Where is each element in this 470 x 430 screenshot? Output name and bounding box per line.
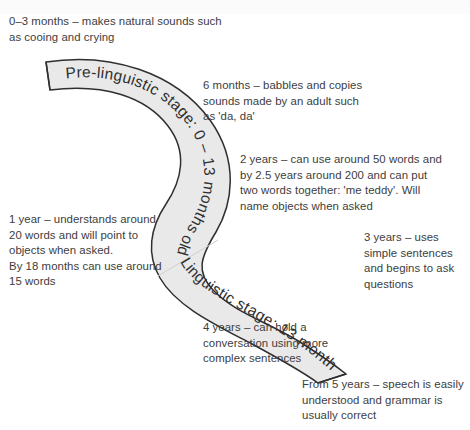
note-2-years: 2 years – can use around 50 words and by…: [240, 152, 445, 214]
note-1-year: 1 year – understands around 20 words and…: [9, 212, 169, 290]
language-development-diagram: Pre-linguistic stage: 0 – 13 months old …: [0, 0, 470, 430]
note-5-years-plus: From 5 years – speech is easily understo…: [302, 377, 468, 424]
note-4-years: 4 years – can hold a conversation using …: [203, 320, 363, 367]
note-6-months: 6 months – babbles and copies sounds mad…: [203, 78, 373, 125]
note-3-years: 3 years – uses simple sentences and begi…: [364, 230, 469, 292]
note-0-3-months: 0–3 months – makes natural sounds such a…: [9, 14, 224, 45]
